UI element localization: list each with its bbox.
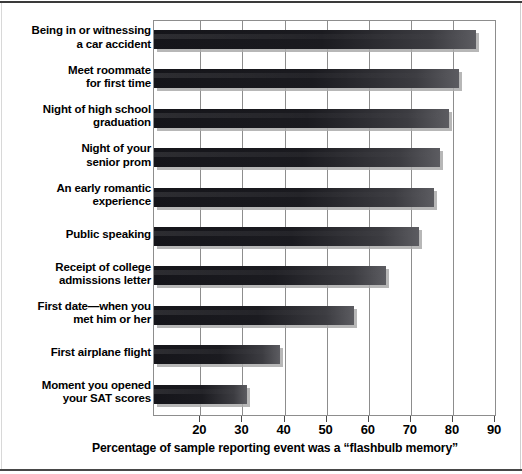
bar [154, 345, 280, 364]
x-tick-label-60: 60 [361, 422, 375, 437]
category-label-line: admissions letter [3, 274, 151, 287]
category-axis-labels: Being in or witnessinga car accidentMeet… [0, 20, 151, 416]
bar-row [154, 21, 495, 60]
category-label-line: a car accident [3, 38, 151, 51]
category-label: Meet roommatefor first time [3, 64, 151, 91]
flashbulb-memory-bar-chart-figure: Being in or witnessinga car accidentMeet… [0, 0, 522, 474]
bar-row [154, 297, 495, 336]
x-axis-title-text: Percentage of sample reporting event was… [92, 441, 458, 455]
category-label-line: Receipt of college [3, 261, 151, 274]
x-tick-label-20: 20 [192, 422, 206, 437]
page-bottom-rule [0, 469, 522, 471]
x-tick-label-80: 80 [445, 422, 459, 437]
bar-series [154, 21, 495, 415]
bar-row [154, 139, 495, 178]
bar-row [154, 376, 495, 415]
category-label: First date—when youmet him or her [3, 300, 151, 327]
category-label-line: Meet roommate [3, 64, 151, 77]
category-label-line: experience [3, 195, 151, 208]
category-label: An early romanticexperience [3, 182, 151, 209]
bar [154, 109, 449, 128]
bar [154, 227, 419, 246]
category-label-line: Night of your [3, 142, 151, 155]
gridline-90 [495, 21, 496, 415]
bar [154, 30, 476, 49]
x-axis-title: Percentage of sample reporting event was… [0, 441, 522, 455]
category-label-line: Being in or witnessing [3, 24, 151, 37]
category-label-line: First airplane flight [3, 346, 151, 359]
category-label-line: your SAT scores [3, 392, 151, 405]
x-tick-label-90: 90 [487, 422, 501, 437]
bar [154, 385, 247, 404]
category-label: Being in or witnessinga car accident [3, 24, 151, 51]
page-top-rule [0, 1, 522, 3]
bar [154, 148, 440, 167]
category-label-line: An early romantic [3, 182, 151, 195]
x-tick-label-70: 70 [403, 422, 417, 437]
x-tick-label-40: 40 [276, 422, 290, 437]
bar [154, 306, 354, 325]
category-label: Moment you openedyour SAT scores [3, 379, 151, 406]
bar-row [154, 257, 495, 296]
category-label-line: First date—when you [3, 300, 151, 313]
bar-row [154, 60, 495, 99]
bar [154, 69, 459, 88]
page-right-edge [520, 3, 521, 470]
category-label-line: for first time [3, 77, 151, 90]
category-label: First airplane flight [3, 346, 151, 359]
plot-area [153, 20, 496, 416]
category-label-line: Moment you opened [3, 379, 151, 392]
category-label-line: Night of high school [3, 103, 151, 116]
category-label: Public speaking [3, 228, 151, 241]
category-label-line: graduation [3, 116, 151, 129]
bar-row [154, 218, 495, 257]
bar [154, 266, 386, 285]
category-label: Night of yoursenior prom [3, 142, 151, 169]
bar-row [154, 179, 495, 218]
category-label-line: met him or her [3, 313, 151, 326]
bar-row [154, 100, 495, 139]
category-label: Receipt of collegeadmissions letter [3, 261, 151, 288]
category-label-line: senior prom [3, 156, 151, 169]
category-label-line: Public speaking [3, 228, 151, 241]
bar-row [154, 336, 495, 375]
x-tick-label-50: 50 [319, 422, 333, 437]
category-label: Night of high schoolgraduation [3, 103, 151, 130]
bar [154, 188, 434, 207]
x-tick-label-30: 30 [234, 422, 248, 437]
x-axis-tick-labels: 2030405060708090 [0, 422, 522, 438]
